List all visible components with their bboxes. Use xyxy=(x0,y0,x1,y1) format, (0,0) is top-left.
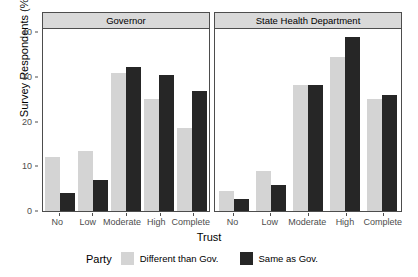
bar[interactable] xyxy=(271,185,286,211)
legend-label-different: Different than Gov. xyxy=(140,253,219,264)
y-tick-mark xyxy=(35,77,38,78)
plot-area-governor xyxy=(43,29,209,211)
bar[interactable] xyxy=(192,91,207,212)
panel-state-health-department: State Health Department xyxy=(214,12,402,212)
bar[interactable] xyxy=(367,99,382,211)
bar-group xyxy=(327,29,364,211)
x-tick-label: High xyxy=(141,217,171,227)
x-tick-label: Complete xyxy=(171,217,210,227)
legend-title: Party xyxy=(86,253,112,265)
bar[interactable] xyxy=(60,193,75,211)
bar[interactable] xyxy=(159,75,174,211)
chart-figure: Survey Respondents (%) 010203040 Governo… xyxy=(0,0,418,277)
y-tick-label: 10 xyxy=(22,161,32,171)
panel-governor: Governor xyxy=(42,12,210,212)
bar[interactable] xyxy=(177,128,192,211)
bar[interactable] xyxy=(45,157,60,211)
x-tick-label: Moderate xyxy=(103,217,141,227)
bar-group xyxy=(252,29,289,211)
legend-item-same-as-gov[interactable]: Same as Gov. xyxy=(240,252,333,265)
bar-group xyxy=(76,29,109,211)
x-axis-title: Trust xyxy=(0,231,418,243)
y-tick-mark xyxy=(35,166,38,167)
plot-area-shd xyxy=(215,29,401,211)
y-tick-mark xyxy=(35,211,38,212)
bar[interactable] xyxy=(293,85,308,211)
bar[interactable] xyxy=(345,37,360,211)
x-tick-label: High xyxy=(326,217,363,227)
panel-strip-label-shd: State Health Department xyxy=(215,13,401,29)
bar[interactable] xyxy=(330,57,345,211)
y-tick-label: 20 xyxy=(22,117,32,127)
bar[interactable] xyxy=(256,171,271,211)
y-tick-mark xyxy=(35,121,38,122)
bar-groups-governor xyxy=(43,29,209,211)
bar-group xyxy=(289,29,326,211)
x-tick-label: Low xyxy=(251,217,288,227)
y-tick-label: 40 xyxy=(22,27,32,37)
bar[interactable] xyxy=(144,99,159,211)
x-axis-labels-shd: NoLowModerateHighComplete xyxy=(214,217,402,227)
legend-swatch-icon-same xyxy=(240,252,253,265)
x-tick-label: No xyxy=(42,217,72,227)
y-tick-label: 30 xyxy=(22,72,32,82)
bar-group xyxy=(143,29,176,211)
bar-group xyxy=(176,29,209,211)
bar[interactable] xyxy=(219,191,234,211)
legend-item-different-than-gov[interactable]: Different than Gov. xyxy=(121,252,233,265)
bar-groups-shd xyxy=(215,29,401,211)
bar[interactable] xyxy=(234,199,249,211)
y-tick-label: 0 xyxy=(27,206,32,216)
x-axis-labels-governor: NoLowModerateHighComplete xyxy=(42,217,210,227)
bar[interactable] xyxy=(126,67,141,211)
legend-label-same: Same as Gov. xyxy=(259,253,319,264)
y-tick-mark xyxy=(35,32,38,33)
bar-group xyxy=(43,29,76,211)
x-tick-label: Complete xyxy=(363,217,402,227)
x-tick-label: Moderate xyxy=(288,217,326,227)
bar-group xyxy=(109,29,142,211)
bar[interactable] xyxy=(111,73,126,211)
panel-strip-label-governor: Governor xyxy=(43,13,209,29)
legend: Party Different than Gov. Same as Gov. xyxy=(0,252,418,265)
legend-swatch-icon-different xyxy=(121,252,134,265)
bar[interactable] xyxy=(78,151,93,211)
x-tick-label: No xyxy=(214,217,251,227)
bar-group xyxy=(215,29,252,211)
x-tick-label: Low xyxy=(72,217,102,227)
bar-group xyxy=(364,29,401,211)
bar[interactable] xyxy=(308,85,323,211)
bar[interactable] xyxy=(382,95,397,211)
bar[interactable] xyxy=(93,180,108,211)
